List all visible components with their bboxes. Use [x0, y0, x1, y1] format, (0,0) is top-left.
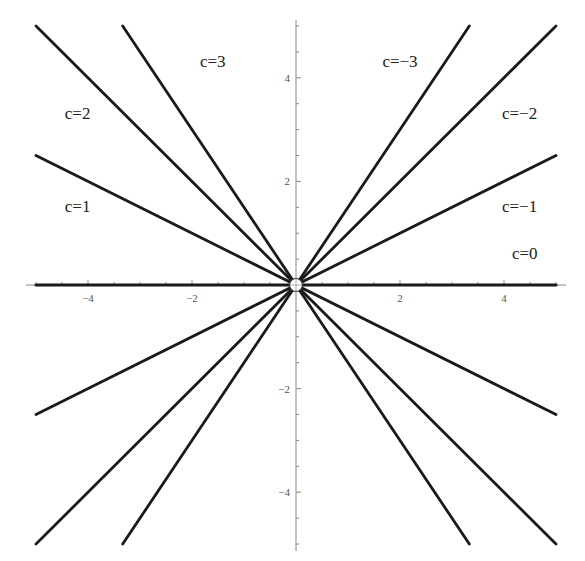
chart-plot: −4−224−4−224 c=3c=2c=1c=−3c=−2c=−1c=0	[0, 0, 585, 561]
origin-open-circle	[290, 279, 303, 292]
y-tick-label: −4	[278, 486, 290, 498]
curve-label: c=−1	[502, 197, 537, 216]
curve-label: c=−2	[502, 104, 537, 123]
y-tick-label: −2	[278, 383, 290, 395]
curve-label: c=0	[512, 244, 538, 263]
x-tick-label: −4	[82, 292, 94, 304]
y-tick-label: 4	[285, 72, 291, 84]
x-tick-label: 2	[397, 292, 403, 304]
curve-label: c=2	[65, 104, 91, 123]
curve-label: c=1	[65, 197, 91, 216]
x-tick-label: −2	[186, 292, 198, 304]
y-tick-label: 2	[285, 175, 291, 187]
curve-label: c=−3	[382, 52, 417, 71]
curve-label: c=3	[200, 52, 226, 71]
x-tick-label: 4	[501, 292, 507, 304]
curve-labels: c=3c=2c=1c=−3c=−2c=−1c=0	[65, 52, 538, 263]
